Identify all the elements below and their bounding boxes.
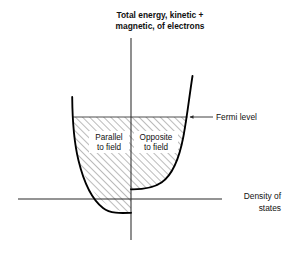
fermi-level-callout: Fermi level	[190, 112, 258, 122]
horizontal-axis-title-line1: Density of	[244, 191, 282, 201]
band-structure-figure: Total energy, kinetic + magnetic, of ele…	[0, 0, 290, 256]
parallel-label-line2: to field	[97, 143, 122, 152]
opposite-label-line2: to field	[144, 143, 169, 152]
opposite-region-label: Opposite to field	[134, 131, 178, 153]
opposite-label-line1: Opposite	[140, 133, 173, 142]
vertical-axis-title-line2: magnetic, of electrons	[116, 21, 205, 31]
parallel-region-label: Parallel to field	[89, 131, 129, 153]
horizontal-axis-title-line2: states	[259, 203, 281, 213]
parallel-label-line1: Parallel	[95, 133, 122, 142]
fermi-level-arrow-icon	[190, 115, 194, 119]
vertical-axis-title-line1: Total energy, kinetic +	[117, 10, 204, 20]
fermi-level-label: Fermi level	[216, 112, 257, 122]
